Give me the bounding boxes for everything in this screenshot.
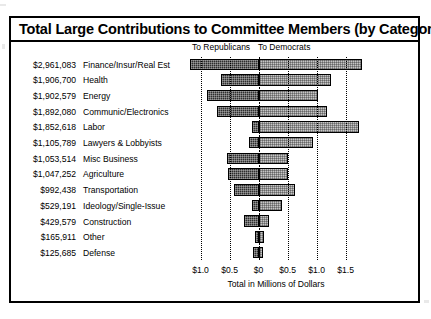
category-row: $1,852,618Labor bbox=[14, 120, 186, 135]
legend-label-republicans: To Republicans bbox=[192, 42, 250, 56]
category-name: Ideology/Single-Issue bbox=[83, 201, 165, 211]
category-row: $1,047,252Agriculture bbox=[14, 167, 186, 182]
bar-republican bbox=[244, 215, 259, 227]
bar-row bbox=[186, 245, 366, 260]
total-amount: $1,906,700 bbox=[14, 75, 76, 85]
bar-democrat bbox=[259, 168, 288, 180]
category-row: $1,053,514Misc Business bbox=[14, 151, 186, 166]
category-name: Lawyers & Lobbyists bbox=[83, 138, 162, 148]
category-name: Misc Business bbox=[83, 154, 138, 164]
x-tick-label: $1.5 bbox=[337, 265, 354, 275]
bar-democrat bbox=[259, 74, 332, 86]
bar-row bbox=[186, 151, 366, 166]
gridline-zero bbox=[259, 57, 260, 261]
category-row: $1,892,080Communic/Electronics bbox=[14, 104, 186, 119]
category-name: Communic/Electronics bbox=[83, 107, 168, 117]
total-amount: $1,053,514 bbox=[14, 154, 76, 164]
bar-democrat bbox=[259, 184, 295, 196]
gridline--0p5 bbox=[230, 57, 231, 261]
bar-democrat bbox=[259, 121, 359, 133]
bar-democrat bbox=[259, 153, 289, 165]
scan-artifact bbox=[0, 4, 6, 6]
bar-row bbox=[186, 73, 366, 88]
bar-row bbox=[186, 167, 366, 182]
total-amount: $1,902,579 bbox=[14, 91, 76, 101]
category-name: Labor bbox=[83, 122, 105, 132]
total-amount: $1,892,080 bbox=[14, 107, 76, 117]
total-amount: $1,047,252 bbox=[14, 169, 76, 179]
category-name: Defense bbox=[83, 248, 115, 258]
chart-screenshot: Total Large Contributions to Committee M… bbox=[0, 0, 431, 319]
bar-republican bbox=[217, 106, 259, 118]
total-amount: $125,685 bbox=[14, 248, 76, 258]
x-tick-label: $1.0 bbox=[308, 265, 325, 275]
bar-row bbox=[186, 104, 366, 119]
category-row: $529,191Ideology/Single-Issue bbox=[14, 198, 186, 213]
category-label-column: $2,961,083Finance/Insur/Real Est$1,906,7… bbox=[14, 57, 186, 261]
bar-republican bbox=[252, 200, 259, 212]
total-amount: $1,852,618 bbox=[14, 122, 76, 132]
chart-title: Total Large Contributions to Committee M… bbox=[11, 18, 418, 40]
legend-label-democrats: To Democrats bbox=[258, 42, 310, 56]
plot-area bbox=[186, 57, 366, 261]
category-name: Health bbox=[83, 75, 108, 85]
bar-row bbox=[186, 183, 366, 198]
x-tick-label: $0.5 bbox=[279, 265, 296, 275]
bar-republican bbox=[252, 121, 259, 133]
total-amount: $529,191 bbox=[14, 201, 76, 211]
bar-republican bbox=[234, 184, 258, 196]
bar-republican bbox=[207, 90, 258, 102]
bar-republican bbox=[249, 137, 259, 149]
bar-democrat bbox=[259, 137, 313, 149]
category-row: $125,685Defense bbox=[14, 245, 186, 260]
bar-row bbox=[186, 88, 366, 103]
category-row: $992,438Transportation bbox=[14, 183, 186, 198]
category-row: $1,105,789Lawyers & Lobbyists bbox=[14, 135, 186, 150]
scan-artifact bbox=[2, 44, 5, 49]
bar-row bbox=[186, 135, 366, 150]
x-tick-label: $1.0 bbox=[192, 265, 209, 275]
x-tick-label: $0.5 bbox=[221, 265, 238, 275]
x-axis-ticks: $1.0$0.5$0$0.5$1.0$1.5 bbox=[186, 265, 376, 277]
bar-row bbox=[186, 198, 366, 213]
x-tick-label: $0 bbox=[254, 265, 264, 275]
bar-row bbox=[186, 120, 366, 135]
category-row: $165,911Other bbox=[14, 230, 186, 245]
total-amount: $429,579 bbox=[14, 217, 76, 227]
total-amount: $2,961,083 bbox=[14, 60, 76, 70]
bar-rows bbox=[186, 57, 366, 261]
bar-democrat bbox=[259, 200, 282, 212]
category-row: $2,961,083Finance/Insur/Real Est bbox=[14, 57, 186, 72]
bar-republican bbox=[228, 168, 259, 180]
gridline--1 bbox=[201, 57, 202, 261]
total-amount: $992,438 bbox=[14, 185, 76, 195]
bar-row bbox=[186, 57, 366, 72]
bar-republican bbox=[227, 153, 259, 165]
bar-row bbox=[186, 214, 366, 229]
category-name: Transportation bbox=[83, 185, 138, 195]
total-amount: $165,911 bbox=[14, 232, 76, 242]
gridline-1 bbox=[317, 57, 318, 261]
category-row: $429,579Construction bbox=[14, 214, 186, 229]
scan-artifact bbox=[424, 300, 429, 303]
category-name: Energy bbox=[83, 91, 110, 101]
bar-republican bbox=[221, 74, 258, 86]
category-name: Finance/Insur/Real Est bbox=[83, 60, 170, 70]
bar-democrat bbox=[259, 215, 269, 227]
gridline-0p5 bbox=[288, 57, 289, 261]
category-name: Agriculture bbox=[83, 169, 124, 179]
bar-row bbox=[186, 230, 366, 245]
category-row: $1,906,700Health bbox=[14, 73, 186, 88]
category-name: Construction bbox=[83, 217, 131, 227]
total-amount: $1,105,789 bbox=[14, 138, 76, 148]
category-row: $1,902,579Energy bbox=[14, 88, 186, 103]
x-axis-label: Total in Millions of Dollars bbox=[186, 279, 366, 289]
gridline-1p5 bbox=[346, 57, 347, 261]
category-name: Other bbox=[83, 232, 105, 242]
